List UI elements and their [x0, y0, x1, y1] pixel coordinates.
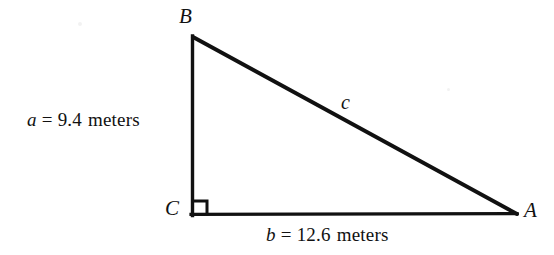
side-label-b: b=12.6meters [266, 225, 389, 244]
side-a-variable: a [27, 109, 42, 130]
right-triangle-figure: B C A a=9.4meters b=12.6meters c [0, 0, 554, 255]
hypotenuse-c-line [193, 37, 517, 214]
side-a-equals: = [42, 109, 58, 130]
scan-speck [447, 88, 450, 91]
side-label-c: c [341, 92, 350, 112]
side-b-unit: meters [331, 224, 389, 245]
side-a-unit: meters [82, 109, 140, 130]
right-angle-marker [194, 201, 207, 214]
scan-speck [78, 22, 82, 26]
vertex-label-c: C [165, 198, 179, 219]
leg-b-line [191, 214, 517, 215]
side-a-value: 9.4 [58, 109, 82, 130]
vertex-label-a: A [524, 200, 537, 221]
side-b-equals: = [281, 224, 297, 245]
vertex-label-b: B [179, 6, 192, 27]
side-b-value: 12.6 [297, 224, 331, 245]
side-label-a: a=9.4meters [27, 110, 140, 129]
side-b-variable: b [266, 224, 281, 245]
